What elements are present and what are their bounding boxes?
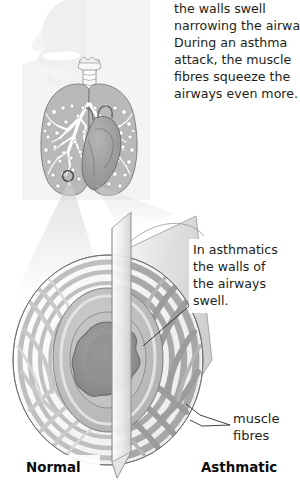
label-normal: Normal: [26, 460, 81, 475]
top-paragraph-line-5: fibres squeeze the: [174, 69, 290, 84]
top-paragraph-line-2: narrowing the airway.: [174, 18, 300, 33]
top-paragraph-line-4: attack, the muscle: [174, 52, 291, 67]
top-paragraph-line-6: airways even more.: [174, 86, 298, 101]
top-paragraph-line-1: the walls swell: [174, 1, 266, 16]
muscle-fibres-label: muscle fibres: [230, 409, 296, 445]
asthmatic-wall-swelling-note: In asthmatics the walls of the airways s…: [189, 239, 297, 313]
middle-paragraph-line-4: swell.: [193, 293, 229, 308]
middle-paragraph-line-2: the walls of: [193, 259, 266, 274]
sagittal-cut-plane: [112, 212, 131, 478]
label-asthmatic: Asthmatic: [201, 460, 277, 475]
top-paragraph-line-3: During an asthma: [174, 35, 287, 50]
asthma-figure: the walls swell narrowing the airway. Du…: [0, 0, 300, 493]
middle-paragraph-line-3: the airways: [193, 276, 266, 291]
muscle-label-line-2: fibres: [233, 428, 269, 443]
muscle-label-line-1: muscle: [233, 411, 279, 426]
middle-paragraph-line-1: In asthmatics: [193, 242, 278, 257]
